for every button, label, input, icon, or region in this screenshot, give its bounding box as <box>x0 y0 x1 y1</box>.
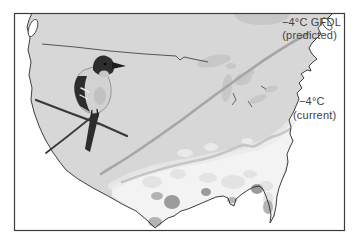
label-predicted-line2: (predicted) <box>282 29 337 41</box>
range-map-canvas: −4°C GFDL (predicted) −4°C (current) <box>0 0 363 245</box>
lake-superior-east <box>226 63 236 69</box>
range-map-figure: −4°C GFDL (predicted) −4°C (current) <box>0 0 363 245</box>
label-current-line2: (current) <box>293 109 336 121</box>
label-predicted: −4°C GFDL (predicted) <box>282 16 341 41</box>
label-current-line1: −4°C <box>299 95 325 107</box>
bird-throat <box>99 71 109 78</box>
label-predicted-line1: −4°C GFDL <box>282 16 341 28</box>
bird-breast-shading <box>94 87 106 105</box>
bird-eye <box>104 63 107 66</box>
